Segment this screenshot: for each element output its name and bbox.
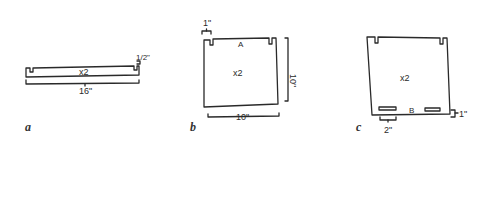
panel-label-a: a	[25, 120, 31, 134]
strip-notch-depth: 1/2"	[136, 53, 150, 62]
panel-label-c: c	[356, 120, 362, 134]
slot-offset-label: 1"	[459, 109, 467, 119]
square-a-height: 10"	[288, 74, 298, 87]
slot-length-label: 2"	[384, 125, 392, 135]
square-b-quantity: x2	[400, 73, 410, 83]
strip-quantity: x2	[79, 67, 89, 77]
notch-offset-label: 1"	[203, 18, 211, 28]
diagram-canvas: x2 16" 1/2" a 1" A x2 10" 10" b x2 B 2" …	[0, 0, 502, 205]
panel-a-strip: x2 16" 1/2"	[26, 53, 150, 96]
square-a-width: 10"	[236, 112, 249, 122]
part-name-a: A	[238, 40, 244, 49]
square-a-quantity: x2	[233, 68, 243, 78]
part-name-b: B	[409, 106, 414, 115]
panel-b-square: 1" A x2 10" 10"	[202, 18, 298, 122]
strip-length: 16"	[79, 86, 92, 96]
panel-c-square: x2 B 2" 1"	[367, 37, 467, 135]
panel-label-b: b	[190, 120, 196, 134]
